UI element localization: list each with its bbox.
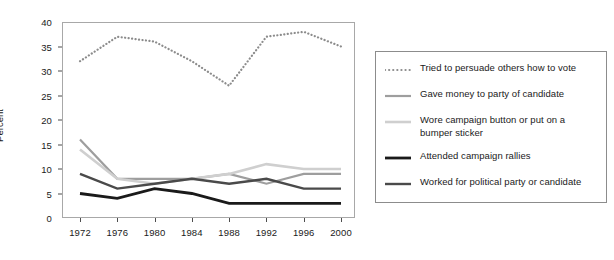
x-axis-tick-mark bbox=[80, 218, 81, 222]
x-axis-tick-mark bbox=[341, 218, 342, 222]
y-axis-tick-label: 35 bbox=[41, 41, 52, 52]
y-axis-title: Percent bbox=[0, 109, 5, 142]
x-axis-tick-mark bbox=[266, 218, 267, 222]
legend-swatch-icon bbox=[385, 65, 411, 77]
legend-item[interactable]: Wore campaign button or put on abumper s… bbox=[385, 114, 600, 139]
legend-item[interactable]: Worked for political party or candidate bbox=[385, 176, 600, 191]
y-axis-tick-label: 5 bbox=[47, 188, 52, 199]
x-axis-tick-label: 2000 bbox=[330, 227, 352, 238]
y-axis: Percent 0510152025303540 bbox=[0, 0, 62, 240]
x-axis-tick-label: 1984 bbox=[181, 227, 203, 238]
x-axis-tick-label: 1996 bbox=[293, 227, 315, 238]
series-lines bbox=[62, 22, 355, 218]
legend: Tried to persuade others how to voteGave… bbox=[375, 51, 607, 203]
series-line bbox=[80, 149, 341, 183]
x-axis-tick-label: 1992 bbox=[256, 227, 278, 238]
x-axis-tick-mark bbox=[304, 218, 305, 222]
y-axis-tick-label: 15 bbox=[41, 139, 52, 150]
x-axis: 19721976198019841988199219962000 bbox=[62, 218, 355, 248]
plot-area bbox=[62, 22, 355, 218]
legend-item[interactable]: Tried to persuade others how to vote bbox=[385, 62, 600, 77]
legend-item-label: Worked for political party or candidate bbox=[420, 176, 581, 189]
line-chart-figure: Percent 0510152025303540 197219761980198… bbox=[0, 0, 614, 260]
y-axis-tick-label: 40 bbox=[41, 17, 52, 28]
legend-item[interactable]: Attended campaign rallies bbox=[385, 150, 600, 165]
y-axis-tick-label: 20 bbox=[41, 115, 52, 126]
legend-swatch-icon bbox=[385, 153, 411, 165]
y-axis-tick-label: 10 bbox=[41, 164, 52, 175]
series-line bbox=[80, 189, 341, 204]
y-axis-tick-label: 0 bbox=[47, 213, 52, 224]
legend-swatch-icon bbox=[385, 91, 411, 103]
legend-item-label: Gave money to party of candidate bbox=[420, 88, 564, 101]
x-axis-tick-label: 1980 bbox=[144, 227, 166, 238]
legend-item-label: Attended campaign rallies bbox=[420, 150, 531, 163]
legend-item-label: Tried to persuade others how to vote bbox=[420, 62, 576, 75]
legend-swatch-icon bbox=[385, 179, 411, 191]
y-axis-tick-label: 30 bbox=[41, 66, 52, 77]
x-axis-tick-mark bbox=[229, 218, 230, 222]
x-axis-tick-label: 1972 bbox=[69, 227, 91, 238]
x-axis-tick-mark bbox=[192, 218, 193, 222]
x-axis-tick-label: 1988 bbox=[218, 227, 240, 238]
series-line bbox=[80, 32, 341, 86]
x-axis-tick-mark bbox=[117, 218, 118, 222]
legend-item-label: Wore campaign button or put on abumper s… bbox=[420, 114, 565, 139]
legend-list: Tried to persuade others how to voteGave… bbox=[385, 62, 600, 196]
y-axis-tick-label: 25 bbox=[41, 90, 52, 101]
x-axis-tick-mark bbox=[155, 218, 156, 222]
x-axis-tick-label: 1976 bbox=[107, 227, 129, 238]
legend-swatch-icon bbox=[385, 117, 411, 129]
legend-item[interactable]: Gave money to party of candidate bbox=[385, 88, 600, 103]
